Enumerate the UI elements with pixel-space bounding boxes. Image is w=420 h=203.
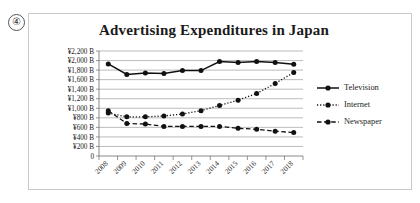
data-point bbox=[161, 113, 166, 118]
data-point bbox=[291, 70, 296, 75]
data-point bbox=[199, 124, 204, 129]
data-point bbox=[106, 108, 111, 113]
x-tick-label: 2011 bbox=[149, 159, 166, 176]
data-point bbox=[273, 60, 278, 65]
question-number-marker: ④ bbox=[8, 14, 25, 31]
x-tick-label: 2014 bbox=[204, 159, 221, 176]
data-point bbox=[106, 61, 111, 66]
legend-label-internet: Internet bbox=[344, 100, 371, 109]
data-point bbox=[180, 112, 185, 117]
series-line-newspaper bbox=[108, 111, 293, 133]
gridlines-group bbox=[96, 51, 303, 156]
data-point bbox=[180, 68, 185, 73]
data-point bbox=[199, 108, 204, 113]
y-axis-tick-labels: ¥2,200 B¥2,000 B¥1,800 B¥1,600 B¥1,400 B… bbox=[68, 48, 95, 161]
y-tick-label: ¥2,200 B bbox=[68, 48, 95, 56]
chart-legend: TelevisionInternetNewspaper bbox=[317, 83, 382, 126]
x-tick-label: 2012 bbox=[167, 159, 184, 176]
x-tick-label: 2013 bbox=[186, 159, 203, 176]
legend-label-television: Television bbox=[344, 83, 380, 92]
legend-marker bbox=[325, 85, 330, 90]
x-tick-label: 2018 bbox=[278, 159, 295, 176]
y-tick-label: ¥2,000 B bbox=[68, 57, 95, 65]
data-point bbox=[199, 68, 204, 73]
data-point bbox=[254, 59, 259, 64]
data-point bbox=[124, 121, 129, 126]
y-tick-label: ¥600 B bbox=[73, 124, 94, 132]
screenshot-root: ④ Advertising Expenditures in Japan ¥2,2… bbox=[0, 0, 420, 203]
x-tick-label: 2016 bbox=[241, 159, 258, 176]
legend-marker bbox=[325, 119, 330, 124]
data-point bbox=[217, 124, 222, 129]
legend-marker bbox=[325, 102, 330, 107]
data-point bbox=[143, 70, 148, 75]
data-point bbox=[161, 71, 166, 76]
chart-container: Advertising Expenditures in Japan ¥2,200… bbox=[28, 13, 412, 190]
data-point bbox=[217, 103, 222, 108]
y-tick-label: ¥1,000 B bbox=[68, 105, 95, 113]
data-point bbox=[217, 59, 222, 64]
data-point bbox=[180, 124, 185, 129]
y-tick-label: ¥1,600 B bbox=[68, 76, 95, 84]
data-point bbox=[254, 127, 259, 132]
plot-area: ¥2,200 B¥2,000 B¥1,800 B¥1,600 B¥1,400 B… bbox=[29, 14, 413, 191]
y-tick-label: 0 bbox=[90, 153, 94, 161]
y-tick-label: ¥1,400 B bbox=[68, 86, 95, 94]
data-point bbox=[273, 81, 278, 86]
data-point bbox=[254, 91, 259, 96]
data-point bbox=[236, 60, 241, 65]
y-tick-label: ¥800 B bbox=[73, 114, 94, 122]
legend-label-newspaper: Newspaper bbox=[344, 117, 382, 126]
data-point bbox=[291, 130, 296, 135]
x-tick-label: 2017 bbox=[260, 159, 277, 176]
y-tick-label: ¥200 B bbox=[73, 143, 94, 151]
data-point bbox=[273, 129, 278, 134]
x-tick-label: 2015 bbox=[223, 159, 240, 176]
data-point bbox=[124, 114, 129, 119]
x-axis-tick-labels: 2008200920102011201220132014201520162017… bbox=[93, 156, 303, 176]
data-point bbox=[143, 122, 148, 127]
data-point bbox=[124, 72, 129, 77]
line-chart-svg: ¥2,200 B¥2,000 B¥1,800 B¥1,600 B¥1,400 B… bbox=[29, 14, 413, 191]
data-point bbox=[236, 126, 241, 131]
data-series-group bbox=[106, 59, 296, 135]
data-point bbox=[291, 62, 296, 67]
data-point bbox=[161, 124, 166, 129]
y-tick-label: ¥400 B bbox=[73, 134, 94, 142]
y-tick-label: ¥1,800 B bbox=[68, 67, 95, 75]
y-tick-label: ¥1,200 B bbox=[68, 95, 95, 103]
x-tick-label: 2009 bbox=[111, 159, 128, 176]
x-tick-label: 2010 bbox=[130, 159, 147, 176]
data-point bbox=[143, 114, 148, 119]
x-tick-label: 2008 bbox=[93, 159, 110, 176]
data-point bbox=[236, 98, 241, 103]
